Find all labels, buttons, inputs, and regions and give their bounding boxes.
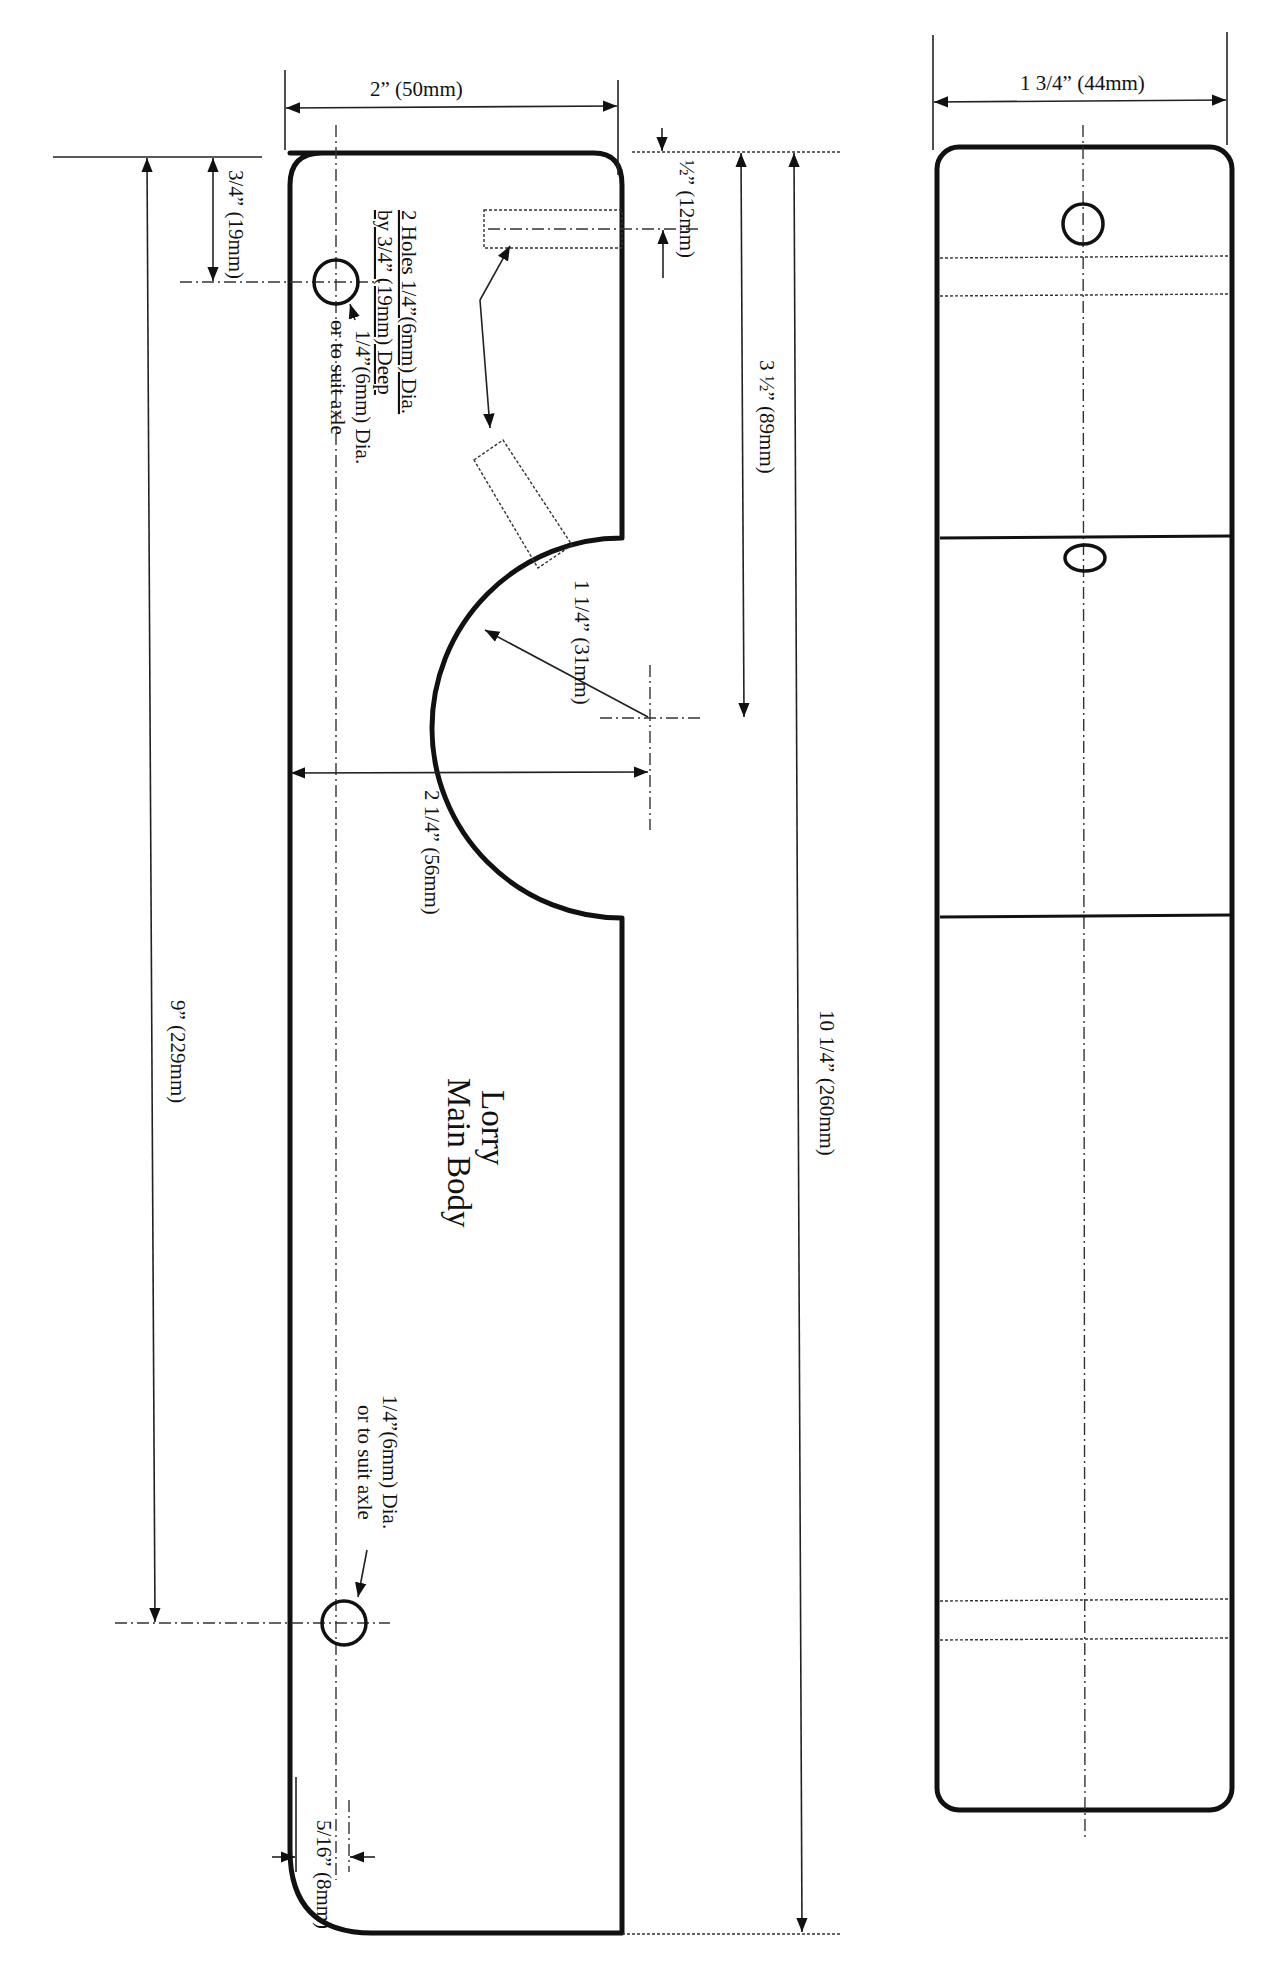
hidden-line-1: [940, 256, 1230, 258]
note-front-axle-line1: 1/4”(6mm) Dia.: [351, 330, 375, 464]
title-line2: Main Body: [441, 1078, 477, 1228]
side-view: 2” (50mm) 3/4” (19mm) 9” (229mm) ½” (12m…: [53, 70, 840, 1934]
note-dowel-holes-line1: 2 Holes 1/4”(6mm) Dia.: [397, 210, 421, 414]
dim-axle-spacing: 9” (229mm): [166, 1000, 190, 1103]
dim-cutout-radius: 1 1/4” (31mm): [570, 580, 594, 705]
top-view: 1 3/4” (44mm): [933, 32, 1232, 1840]
dim-overall-length: 10 1/4” (260mm): [815, 1010, 839, 1156]
dim-top-view-width: 1 3/4” (44mm): [1020, 71, 1145, 95]
dim-rear-hole-offset: 5/16” (8mm): [312, 1820, 336, 1929]
note-rear-axle-line2: or to suit axle: [353, 1405, 377, 1520]
cutout-edge-top: [940, 536, 1230, 538]
title-line1: Lorry: [475, 1090, 511, 1166]
cutout-edge-bottom: [940, 915, 1230, 917]
top-view-center-line: [1083, 125, 1085, 1840]
dim-cutout-center: 3 ½” (89mm): [755, 360, 779, 474]
dim-cutout-width: 2 1/4” (56mm): [420, 790, 444, 915]
dim-front-hole-offset: 3/4” (19mm): [224, 170, 248, 279]
note-dowel-holes-line2: by 3/4” (19mm) Deep: [373, 210, 397, 395]
top-view-dowel-hole: [1065, 545, 1105, 571]
hidden-line-2: [940, 294, 1230, 296]
lorry-main-body-drawing: 2” (50mm) 3/4” (19mm) 9” (229mm) ½” (12m…: [0, 0, 1284, 1970]
note-front-axle-line2: or to suit axle: [326, 320, 350, 435]
dim-dowel-offset: ½” (12mm): [675, 160, 699, 258]
hidden-line-4: [940, 1638, 1230, 1640]
note-rear-axle-line1: 1/4”(6mm) Dia.: [378, 1395, 402, 1529]
dim-width-top: 2” (50mm): [370, 77, 463, 101]
